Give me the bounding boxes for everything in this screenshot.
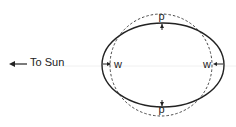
right-inward-arrow-icon	[213, 62, 223, 66]
top-arrow-icon	[160, 24, 164, 30]
to-sun-label: To Sun	[30, 56, 64, 68]
arrow-left-icon	[9, 61, 27, 67]
label-left-w: w	[113, 58, 122, 70]
label-bottom-p: p	[159, 103, 165, 115]
label-right-w: w	[202, 58, 211, 70]
label-top-p: p	[159, 10, 165, 22]
